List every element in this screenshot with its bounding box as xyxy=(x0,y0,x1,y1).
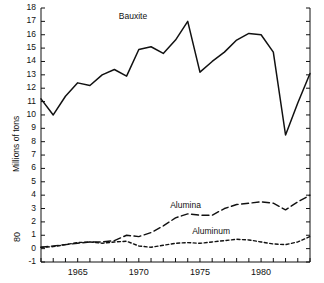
x-tick-label: 1975 xyxy=(180,267,220,277)
y-tick-label: 8 xyxy=(14,136,36,146)
plot-area xyxy=(0,0,324,283)
y-tick-label: 3 xyxy=(14,203,36,213)
series-label-bauxite: Bauxite xyxy=(119,11,147,21)
series-label-alumina: Alumina xyxy=(170,200,201,210)
y-tick-label: 4 xyxy=(14,189,36,199)
y-tick-label: 10 xyxy=(14,109,36,119)
x-tick-label: 1965 xyxy=(58,267,98,277)
data-series xyxy=(41,21,310,247)
series-line-bauxite xyxy=(41,21,310,135)
y-tick-label: 6 xyxy=(14,162,36,172)
x-tick-label: 1980 xyxy=(241,267,281,277)
y-tick-label: 17 xyxy=(14,15,36,25)
y-tick-label: 15 xyxy=(14,42,36,52)
y-tick-label: 1 xyxy=(14,229,36,239)
series-label-aluminum: Aluminum xyxy=(192,226,230,236)
chart-container: Millions of tons 80 -1012345678910111213… xyxy=(0,0,324,283)
y-tick-label: -1 xyxy=(14,256,36,266)
y-tick-label: 13 xyxy=(14,69,36,79)
y-tick-label: 5 xyxy=(14,176,36,186)
y-tick-label: 7 xyxy=(14,149,36,159)
y-tick-label: 14 xyxy=(14,55,36,65)
y-tick-label: 9 xyxy=(14,122,36,132)
y-tick-label: 16 xyxy=(14,29,36,39)
y-tick-label: 2 xyxy=(14,216,36,226)
y-tick-label: 18 xyxy=(14,2,36,12)
y-tick-label: 11 xyxy=(14,96,36,106)
series-line-aluminum xyxy=(41,237,310,248)
x-tick-label: 1970 xyxy=(119,267,159,277)
y-tick-label: 0 xyxy=(14,243,36,253)
y-tick-label: 12 xyxy=(14,82,36,92)
